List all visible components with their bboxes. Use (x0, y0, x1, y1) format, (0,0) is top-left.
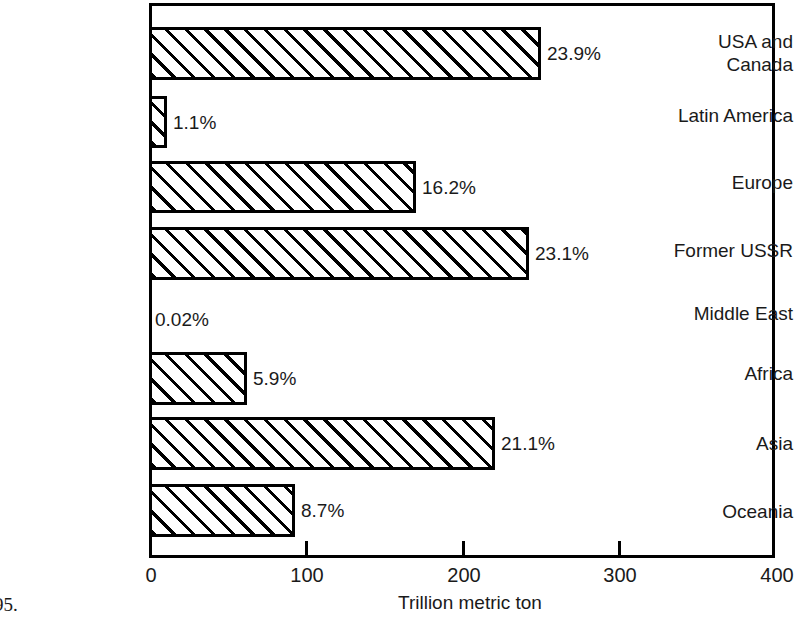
value-label-usa-and-canada: 23.9% (547, 44, 601, 63)
category-label-latin-america: Latin America (653, 104, 793, 127)
category-label-former-ussr: Former USSR (653, 239, 793, 262)
x-tick-label-200: 200 (429, 565, 499, 585)
bar-oceania (149, 484, 295, 537)
x-axis-title: Trillion metric ton (398, 592, 542, 614)
bar-former-ussr (149, 227, 529, 280)
category-label-usa-and-canada: USA and Canada (653, 30, 793, 76)
value-label-africa: 5.9% (253, 369, 296, 388)
x-tick-label-300: 300 (585, 565, 655, 585)
value-label-latin-america: 1.1% (173, 113, 216, 132)
bar-asia (149, 417, 495, 470)
category-label-middle-east: Middle East (653, 302, 793, 325)
plot-frame (149, 3, 775, 558)
bar-latin-america (149, 96, 167, 148)
x-tick-mark-200 (462, 541, 465, 558)
x-tick-label-400: 400 (742, 565, 798, 585)
x-tick-mark-100 (305, 541, 308, 558)
bar-africa (149, 352, 247, 405)
x-tick-label-100: 100 (272, 565, 342, 585)
value-label-middle-east: 0.02% (155, 310, 209, 329)
x-tick-label-0: 0 (116, 565, 186, 585)
category-label-asia: Asia (653, 432, 793, 455)
category-label-africa: Africa (653, 362, 793, 385)
value-label-former-ussr: 23.1% (535, 244, 589, 263)
page-number-fragment: 95. (0, 594, 18, 616)
value-label-asia: 21.1% (501, 434, 555, 453)
bar-europe (149, 161, 416, 213)
bar-usa-and-canada (149, 27, 541, 80)
x-tick-mark-300 (618, 541, 621, 558)
category-label-europe: Europe (653, 171, 793, 194)
value-label-oceania: 8.7% (301, 501, 344, 520)
category-label-oceania: Oceania (653, 500, 793, 523)
value-label-europe: 16.2% (422, 178, 476, 197)
